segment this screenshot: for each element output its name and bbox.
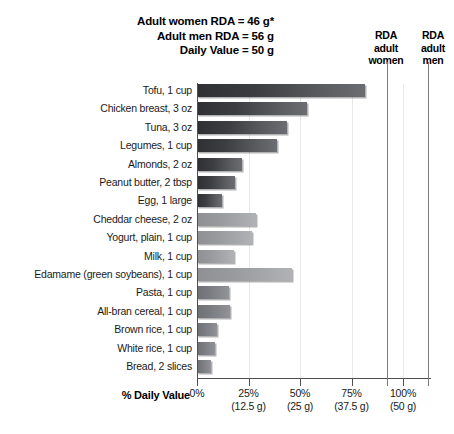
bar-row[interactable] bbox=[197, 194, 403, 207]
x-tick-grams: (37.5 g) bbox=[324, 400, 380, 413]
bar[interactable] bbox=[197, 102, 307, 115]
category-label: Yogurt, plain, 1 cup bbox=[2, 231, 192, 244]
rda-men-line bbox=[428, 62, 429, 386]
category-label: Cheddar cheese, 2 oz bbox=[2, 213, 192, 226]
bar-row[interactable] bbox=[197, 158, 403, 171]
rda-note-block: Adult women RDA = 46 g* Adult men RDA = … bbox=[14, 14, 274, 58]
bar[interactable] bbox=[197, 250, 234, 263]
bar-row[interactable] bbox=[197, 360, 403, 373]
bar[interactable] bbox=[197, 342, 215, 355]
x-tick-percent: 50% bbox=[272, 387, 328, 400]
x-tick-percent: 75% bbox=[324, 387, 380, 400]
x-axis-line bbox=[197, 378, 431, 379]
bar-row[interactable] bbox=[197, 342, 403, 355]
bar[interactable] bbox=[197, 194, 222, 207]
category-label: Egg, 1 large bbox=[2, 194, 192, 207]
category-label: Peanut butter, 2 tbsp bbox=[2, 176, 192, 189]
category-label: Almonds, 2 oz bbox=[2, 158, 192, 171]
x-tick-grams: (50 g) bbox=[375, 400, 431, 413]
protein-daily-value-chart: Adult women RDA = 46 g* Adult men RDA = … bbox=[0, 0, 454, 434]
x-axis-tick bbox=[352, 379, 353, 386]
note-men-rda: Adult men RDA = 56 g bbox=[14, 29, 274, 44]
rda-women-line bbox=[387, 62, 388, 386]
note-daily-value: Daily Value = 50 g bbox=[14, 43, 274, 58]
category-label: Pasta, 1 cup bbox=[2, 286, 192, 299]
bar-row[interactable] bbox=[197, 213, 403, 226]
plot-area bbox=[197, 84, 403, 378]
note-women-rda: Adult women RDA = 46 g* bbox=[14, 14, 274, 29]
bar[interactable] bbox=[197, 305, 230, 318]
x-axis-tick bbox=[403, 379, 404, 386]
bar[interactable] bbox=[197, 84, 365, 97]
rda-men-caption: RDA adult men bbox=[413, 29, 453, 67]
bar[interactable] bbox=[197, 286, 229, 299]
category-label: Bread, 2 slices bbox=[2, 360, 192, 373]
x-tick-percent: 0% bbox=[169, 387, 225, 400]
x-tick-label: 50%(25 g) bbox=[272, 387, 328, 412]
category-label: White rice, 1 cup bbox=[2, 342, 192, 355]
x-axis-tick bbox=[300, 379, 301, 386]
bar[interactable] bbox=[197, 158, 242, 171]
category-label: Tofu, 1 cup bbox=[2, 84, 192, 97]
x-tick-grams: (12.5 g) bbox=[221, 400, 277, 413]
bar-row[interactable] bbox=[197, 323, 403, 336]
x-tick-percent: 25% bbox=[221, 387, 277, 400]
bar-row[interactable] bbox=[197, 102, 403, 115]
x-axis-tick bbox=[249, 379, 250, 386]
category-label: Legumes, 1 cup bbox=[2, 139, 192, 152]
category-label: Milk, 1 cup bbox=[2, 250, 192, 263]
category-label: Chicken breast, 3 oz bbox=[2, 102, 192, 115]
category-label: Brown rice, 1 cup bbox=[2, 323, 192, 336]
rda-men-caption-line2: adult bbox=[413, 42, 453, 55]
bar-row[interactable] bbox=[197, 139, 403, 152]
bar[interactable] bbox=[197, 176, 235, 189]
bar[interactable] bbox=[197, 139, 277, 152]
x-tick-grams: (25 g) bbox=[272, 400, 328, 413]
x-axis-tick-labels: 0%25%(12.5 g)50%(25 g)75%(37.5 g)100%(50… bbox=[0, 387, 454, 423]
bar[interactable] bbox=[197, 360, 211, 373]
category-label: Tuna, 3 oz bbox=[2, 121, 192, 134]
x-tick-label: 75%(37.5 g) bbox=[324, 387, 380, 412]
rda-men-caption-line1: RDA bbox=[413, 29, 453, 42]
x-tick-label: 25%(12.5 g) bbox=[221, 387, 277, 412]
x-tick-percent: 100% bbox=[375, 387, 431, 400]
y-axis-line bbox=[197, 83, 198, 379]
rda-women-caption-line1: RDA bbox=[355, 29, 417, 42]
bar-row[interactable] bbox=[197, 121, 403, 134]
bar-row[interactable] bbox=[197, 286, 403, 299]
x-tick-label: 0% bbox=[169, 387, 225, 400]
bar[interactable] bbox=[197, 121, 287, 134]
category-label: Edamame (green soybeans), 1 cup bbox=[2, 268, 192, 281]
bar-row[interactable] bbox=[197, 84, 403, 97]
bar[interactable] bbox=[197, 231, 252, 244]
x-tick-label: 100%(50 g) bbox=[375, 387, 431, 412]
bar-row[interactable] bbox=[197, 231, 403, 244]
category-label: All-bran cereal, 1 cup bbox=[2, 305, 192, 318]
rda-women-caption: RDA adult women bbox=[355, 29, 417, 67]
bar[interactable] bbox=[197, 323, 217, 336]
bar-row[interactable] bbox=[197, 176, 403, 189]
x-axis-tick bbox=[197, 379, 198, 386]
category-label-list: Tofu, 1 cupChicken breast, 3 ozTuna, 3 o… bbox=[0, 84, 192, 378]
rda-men-caption-line3: men bbox=[413, 54, 453, 67]
rda-women-caption-line2: adult bbox=[355, 42, 417, 55]
bar-row[interactable] bbox=[197, 305, 403, 318]
gridline bbox=[403, 84, 404, 378]
bar-row[interactable] bbox=[197, 250, 403, 263]
bar[interactable] bbox=[197, 213, 256, 226]
bar[interactable] bbox=[197, 268, 292, 281]
bar-row[interactable] bbox=[197, 268, 403, 281]
